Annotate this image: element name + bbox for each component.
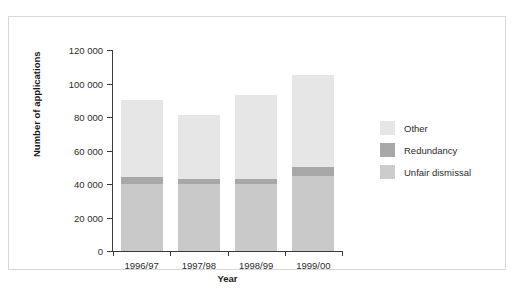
bar-segment xyxy=(178,179,220,184)
y-axis-tick-label: 0 xyxy=(9,246,103,257)
bar-segment xyxy=(121,184,163,251)
x-axis-tick xyxy=(113,251,114,256)
x-axis-tick xyxy=(228,251,229,256)
legend-item: Unfair dismissal xyxy=(380,161,471,183)
y-axis-tick-label: 120 000 xyxy=(9,45,103,56)
x-axis-tick-label: 1997/98 xyxy=(182,260,216,271)
legend: OtherRedundancyUnfair dismissal xyxy=(380,117,471,183)
legend-item: Other xyxy=(380,117,471,139)
legend-swatch xyxy=(380,165,395,179)
legend-item: Redundancy xyxy=(380,139,471,161)
bar-segment xyxy=(178,184,220,251)
x-axis-tick-label: 1998/99 xyxy=(239,260,273,271)
y-axis-title-holder: Number of applications xyxy=(53,77,69,227)
y-axis-tick-label-wrap: 0 xyxy=(9,251,103,262)
figure: 020 00040 00060 00080 000100 000120 000 … xyxy=(0,0,516,297)
legend-label: Redundancy xyxy=(404,145,457,156)
chart-frame: 020 00040 00060 00080 000100 000120 000 … xyxy=(8,16,506,270)
stacked-bar xyxy=(121,50,163,251)
y-axis-tick-label-wrap: 120 000 xyxy=(9,50,103,61)
x-axis-tick-label: 1996/97 xyxy=(124,260,158,271)
legend-swatch xyxy=(380,121,395,135)
bar-segment xyxy=(235,184,277,251)
x-axis-tick xyxy=(170,251,171,256)
bar-segment xyxy=(292,176,334,251)
stacked-bar xyxy=(292,50,334,251)
bar-segment xyxy=(178,115,220,179)
legend-label: Other xyxy=(404,123,428,134)
bar-segment xyxy=(121,177,163,184)
bar-segment xyxy=(235,95,277,179)
legend-label: Unfair dismissal xyxy=(404,167,471,178)
plot-area xyxy=(113,50,342,251)
x-axis-title: Year xyxy=(113,273,342,284)
x-axis-tick xyxy=(285,251,286,256)
x-axis-tick xyxy=(342,251,343,256)
y-axis-title: Number of applications xyxy=(31,7,42,157)
x-axis-tick-label: 1999/00 xyxy=(296,260,330,271)
bar-segment xyxy=(292,167,334,175)
bar-segment xyxy=(121,100,163,177)
legend-swatch xyxy=(380,143,395,157)
bar-segment xyxy=(235,179,277,184)
bar-segment xyxy=(292,75,334,167)
stacked-bar xyxy=(178,50,220,251)
stacked-bar xyxy=(235,50,277,251)
